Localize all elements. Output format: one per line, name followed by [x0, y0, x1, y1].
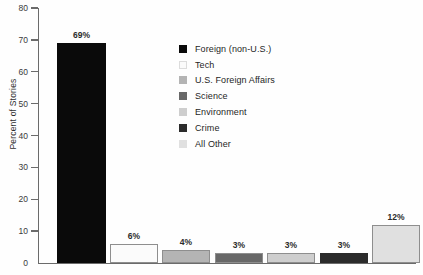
bar-value-label-3: 4%	[180, 237, 192, 247]
legend-item-2: Tech	[179, 57, 275, 73]
y-tick-80	[31, 7, 38, 8]
legend-label-6: Crime	[195, 123, 220, 133]
legend-item-5: Environment	[179, 104, 275, 120]
y-tick-50	[31, 103, 38, 104]
bar-2	[110, 244, 158, 263]
bar-value-label-6: 3%	[338, 240, 350, 250]
legend-swatch-icon-6	[179, 124, 187, 132]
y-tick-70	[31, 39, 38, 40]
legend-swatch-icon-2	[179, 61, 187, 69]
y-tick-40	[31, 135, 38, 136]
y-tick-10	[31, 230, 38, 231]
y-tick-label-40: 40	[0, 131, 28, 141]
bar-value-label-2: 6%	[128, 231, 140, 241]
legend-item-7: All Other	[179, 136, 275, 152]
y-tick-30	[31, 167, 38, 168]
y-tick-20	[31, 199, 38, 200]
legend-item-1: Foreign (non-U.S.)	[179, 41, 275, 57]
legend-label-4: Science	[195, 91, 228, 101]
y-tick-label-0: 0	[0, 258, 28, 268]
legend-item-6: Crime	[179, 120, 275, 136]
bar-value-label-1: 69%	[73, 30, 90, 40]
bar-chart: Percent of Stories 01020304050607080 69%…	[0, 0, 423, 275]
legend-swatch-icon-7	[179, 140, 187, 148]
y-tick-label-50: 50	[0, 99, 28, 109]
y-tick-label-20: 20	[0, 194, 28, 204]
bar-5	[267, 253, 315, 263]
legend: Foreign (non-U.S.)TechU.S. Foreign Affai…	[179, 41, 275, 152]
legend-label-3: U.S. Foreign Affairs	[195, 75, 275, 85]
bar-value-label-4: 3%	[233, 240, 245, 250]
legend-label-5: Environment	[195, 107, 247, 117]
bar-7	[372, 225, 420, 263]
legend-swatch-icon-4	[179, 92, 187, 100]
y-tick-label-80: 80	[0, 3, 28, 13]
legend-swatch-icon-1	[179, 45, 187, 53]
y-tick-label-60: 60	[0, 67, 28, 77]
legend-item-4: Science	[179, 88, 275, 104]
y-tick-60	[31, 71, 38, 72]
legend-label-2: Tech	[195, 60, 214, 70]
bar-value-label-7: 12%	[387, 212, 404, 222]
y-axis-line	[38, 8, 39, 263]
legend-label-1: Foreign (non-U.S.)	[195, 44, 271, 54]
bar-1	[57, 43, 106, 263]
legend-item-3: U.S. Foreign Affairs	[179, 73, 275, 89]
y-tick-label-30: 30	[0, 162, 28, 172]
bar-4	[215, 253, 263, 263]
legend-swatch-icon-5	[179, 108, 187, 116]
bar-3	[162, 250, 210, 263]
legend-swatch-icon-3	[179, 76, 187, 84]
y-tick-label-10: 10	[0, 226, 28, 236]
bar-value-label-5: 3%	[285, 240, 297, 250]
y-tick-label-70: 70	[0, 35, 28, 45]
legend-label-7: All Other	[195, 139, 231, 149]
bar-6	[320, 253, 368, 263]
